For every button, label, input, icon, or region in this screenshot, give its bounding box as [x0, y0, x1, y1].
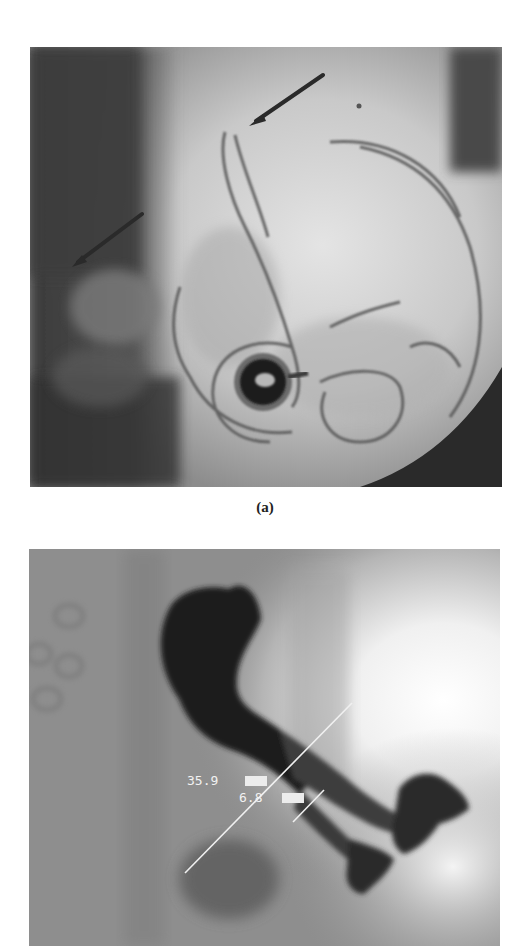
radiograph-b: 35.9 6.8	[29, 549, 500, 946]
short-measurement-value: 6.8	[239, 790, 262, 805]
figure-panel-a	[30, 47, 502, 487]
panel-a-caption: (a)	[240, 499, 290, 516]
long-measurement-value: 35.9	[187, 773, 218, 788]
mm-unit-box	[245, 776, 267, 786]
mm-unit-box	[282, 793, 304, 803]
figure-panel-b: 35.9 6.8	[29, 549, 500, 946]
radiograph-a	[30, 47, 502, 487]
